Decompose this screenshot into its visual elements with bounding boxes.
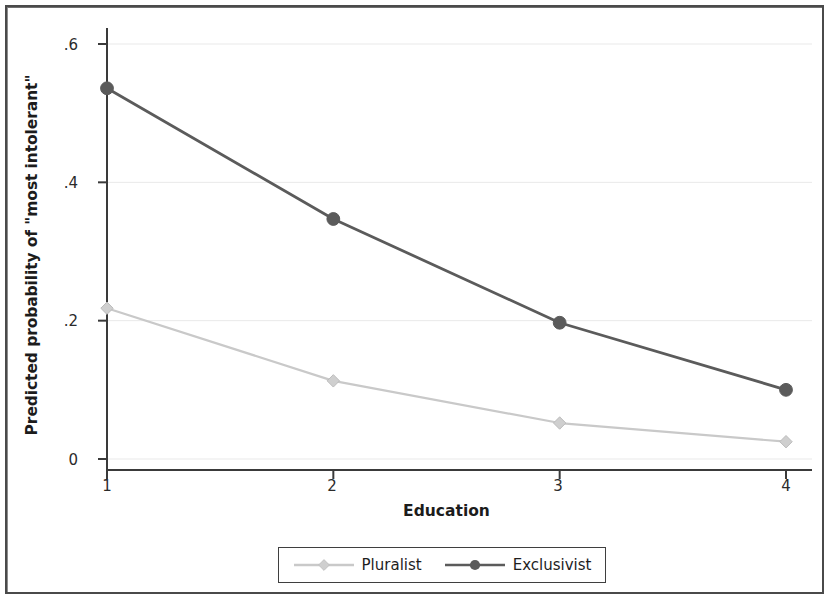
- axis-ticks: [98, 44, 786, 479]
- data-point-pluralist-2: [553, 417, 565, 429]
- gridlines: [106, 44, 812, 459]
- data-point-pluralist-3: [780, 436, 792, 448]
- legend-item-pluralist: Pluralist: [293, 556, 422, 574]
- legend: Pluralist Exclusivist: [278, 547, 606, 583]
- data-point-pluralist-1: [327, 375, 339, 387]
- data-point-pluralist-0: [101, 302, 113, 314]
- data-point-exclusivist-2: [553, 316, 566, 329]
- legend-label-pluralist: Pluralist: [362, 556, 422, 574]
- series-line-pluralist: [107, 308, 786, 441]
- series-lines: [107, 88, 786, 441]
- legend-swatch-pluralist: [293, 557, 355, 573]
- data-point-exclusivist-3: [780, 383, 793, 396]
- plot-canvas: [0, 0, 830, 609]
- data-point-exclusivist-1: [327, 213, 340, 226]
- legend-swatch-exclusivist: [444, 557, 506, 573]
- data-point-exclusivist-0: [101, 82, 114, 95]
- legend-label-exclusivist: Exclusivist: [513, 556, 592, 574]
- chart-figure: Predicted probability of "most intoleran…: [0, 0, 830, 609]
- legend-item-exclusivist: Exclusivist: [444, 556, 592, 574]
- series-markers: [101, 82, 793, 448]
- series-line-exclusivist: [107, 88, 786, 390]
